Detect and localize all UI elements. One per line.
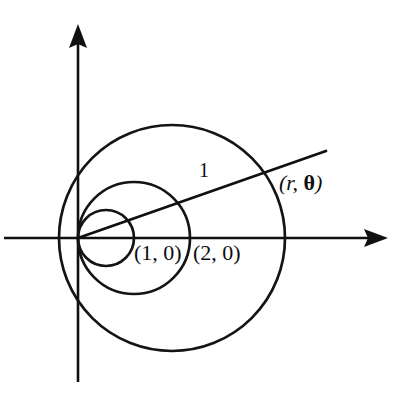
label-comma: , <box>292 170 303 195</box>
label-polar-point: (r, θ) <box>279 172 322 194</box>
label-radius-one: 1 <box>199 160 209 180</box>
label-point-one-zero: (1, 0) <box>134 242 182 264</box>
polar-circles-figure: 1 (1, 0) (2, 0) (r, θ) <box>0 0 401 406</box>
label-paren-close: ) <box>315 170 322 195</box>
label-point-two-zero: (2, 0) <box>193 242 241 264</box>
figure-canvas <box>0 0 401 406</box>
label-theta-variable: θ <box>303 170 314 195</box>
axes-group <box>4 24 388 382</box>
